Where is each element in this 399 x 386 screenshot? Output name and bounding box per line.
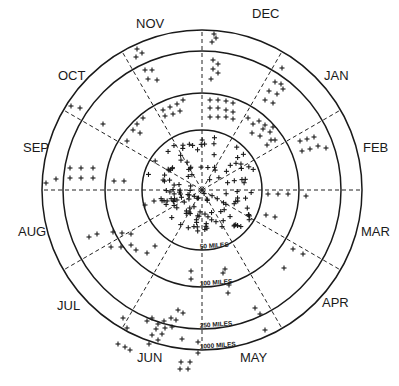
cross-marker xyxy=(79,176,84,181)
cross-marker xyxy=(188,360,193,365)
cross-marker xyxy=(225,180,230,185)
cross-marker xyxy=(208,98,213,103)
cross-marker xyxy=(175,102,180,107)
cross-marker xyxy=(181,311,186,316)
cross-marker xyxy=(304,194,309,199)
cross-marker xyxy=(226,291,231,296)
cross-marker xyxy=(79,166,84,171)
cross-marker xyxy=(301,252,306,257)
month-label-jun: JUN xyxy=(137,350,162,365)
cross-marker xyxy=(238,162,243,167)
cross-marker xyxy=(68,166,73,171)
cross-marker xyxy=(91,166,96,171)
cross-marker xyxy=(120,231,125,236)
cross-marker xyxy=(181,98,186,103)
cross-marker xyxy=(231,117,236,122)
cross-marker xyxy=(150,68,155,73)
cross-marker xyxy=(185,160,190,165)
ring-label: 1000 MILES xyxy=(199,340,236,350)
cross-marker xyxy=(263,328,268,333)
cross-marker xyxy=(215,196,220,201)
cross-marker xyxy=(122,179,127,184)
cross-marker xyxy=(246,164,251,169)
cross-marker xyxy=(150,333,155,338)
cross-marker xyxy=(204,221,209,226)
cross-marker xyxy=(162,173,167,178)
cross-marker xyxy=(275,92,280,97)
cross-marker xyxy=(198,165,203,170)
cross-marker xyxy=(178,367,183,372)
cross-marker xyxy=(224,169,229,174)
cross-marker xyxy=(163,326,168,331)
cross-marker xyxy=(231,101,236,106)
cross-marker xyxy=(134,55,139,60)
cross-marker xyxy=(186,225,191,230)
cross-marker xyxy=(211,141,216,146)
ring-labels: 50 MILES100 MILES250 MILES1000 MILES xyxy=(199,241,236,350)
cross-marker xyxy=(171,187,176,192)
cross-marker xyxy=(208,115,213,120)
cross-marker xyxy=(224,115,229,120)
cross-marker xyxy=(265,143,270,148)
cross-marker xyxy=(228,163,233,168)
cross-marker xyxy=(324,146,329,151)
cross-marker xyxy=(188,183,193,188)
cross-marker xyxy=(169,316,174,321)
cross-marker xyxy=(251,122,256,127)
cross-marker xyxy=(213,219,218,224)
cross-marker xyxy=(269,138,274,143)
cross-marker xyxy=(131,128,136,133)
cross-marker xyxy=(210,193,215,198)
cross-marker xyxy=(216,98,221,103)
cross-marker xyxy=(146,77,151,82)
cross-marker xyxy=(271,101,276,106)
cross-marker xyxy=(286,192,291,197)
cross-marker xyxy=(138,131,143,136)
cross-marker xyxy=(182,200,187,205)
month-label-oct: OCT xyxy=(58,68,86,83)
cross-marker xyxy=(250,131,255,136)
month-label-nov: NOV xyxy=(136,16,165,31)
cross-marker xyxy=(121,316,126,321)
cross-marker xyxy=(243,177,248,182)
cross-marker xyxy=(125,139,130,144)
cross-marker xyxy=(186,367,191,372)
cross-marker xyxy=(233,161,238,166)
cross-marker xyxy=(305,137,310,142)
cross-marker xyxy=(213,168,218,173)
cross-marker xyxy=(216,62,221,67)
cross-marker xyxy=(172,191,177,196)
cross-marker xyxy=(153,244,158,249)
polar-diagram: DECJANFEBMARAPRMAYJUNJULAUGSEPOCTNOV 50 … xyxy=(0,0,399,386)
observation-points xyxy=(44,32,329,372)
cross-marker xyxy=(205,214,210,219)
cross-marker xyxy=(266,192,271,197)
month-label-apr: APR xyxy=(322,295,349,310)
cross-marker xyxy=(238,224,243,229)
cross-marker xyxy=(91,176,96,181)
cross-marker xyxy=(264,213,269,218)
cross-marker xyxy=(128,348,133,353)
cross-marker xyxy=(207,177,212,182)
cross-marker xyxy=(300,149,305,154)
cross-marker xyxy=(224,108,229,113)
month-label-sep: SEP xyxy=(23,140,49,155)
cross-marker xyxy=(263,98,268,103)
cross-marker xyxy=(212,135,217,140)
cross-marker xyxy=(241,152,246,157)
cross-marker xyxy=(179,360,184,365)
cross-marker xyxy=(208,106,213,111)
cross-marker xyxy=(267,89,272,94)
cross-marker xyxy=(134,248,139,253)
cross-marker xyxy=(140,51,145,56)
cross-marker xyxy=(116,342,121,347)
cross-marker xyxy=(273,80,278,85)
cross-marker xyxy=(156,338,161,343)
cross-marker xyxy=(228,214,233,219)
cross-marker xyxy=(187,142,192,147)
cross-marker xyxy=(123,345,128,350)
cross-marker xyxy=(178,153,183,158)
month-label-aug: AUG xyxy=(18,224,46,239)
cross-marker xyxy=(69,104,74,109)
cross-marker xyxy=(195,228,200,233)
